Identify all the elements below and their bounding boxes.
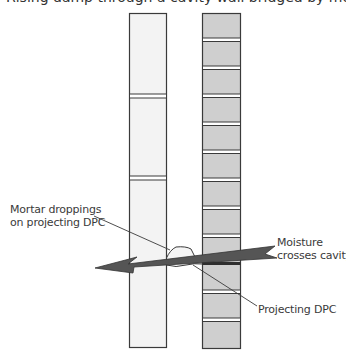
label-projecting-dpc: Projecting DPC — [258, 303, 336, 316]
label-mortar-line2: on projecting DPC — [10, 216, 105, 229]
label-moisture-line1: Moisture — [277, 236, 346, 249]
label-mortar-droppings: Mortar droppings on projecting DPC — [10, 203, 105, 229]
outer-leaf — [203, 14, 241, 349]
label-moisture-line2: crosses cavity — [277, 249, 346, 262]
inner-leaf — [130, 14, 167, 348]
label-moisture: Moisture crosses cavity — [277, 236, 346, 262]
cavity-wall-diagram — [0, 0, 346, 355]
label-mortar-line1: Mortar droppings — [10, 203, 105, 216]
